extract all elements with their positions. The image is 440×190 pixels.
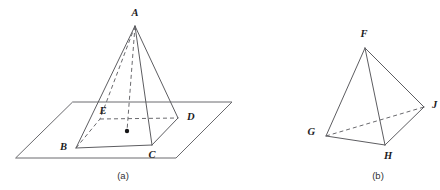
figure-a-group: A B C D E (a)	[16, 7, 232, 180]
vertex-label-C: C	[148, 149, 156, 160]
hidden-edge-A-center	[127, 26, 135, 131]
edge-G-H	[326, 136, 385, 145]
figure-b-solid-edges	[326, 48, 424, 145]
edge-B-C	[76, 145, 152, 148]
base-center-dot	[125, 129, 129, 133]
figure-b-labels: F G H J	[307, 28, 438, 161]
edge-C-D	[152, 118, 178, 145]
vertex-label-A: A	[130, 7, 138, 18]
edge-F-H	[365, 48, 385, 145]
figure-a-caption: (a)	[117, 170, 129, 181]
figure-root: A B C D E (a) F G	[0, 0, 440, 190]
edge-F-G	[326, 48, 365, 136]
figure-a-labels: A B C D E	[59, 7, 195, 160]
figure-b-group: F G H J (b)	[307, 28, 438, 180]
edge-H-J	[385, 107, 424, 145]
horizontal-plane	[16, 102, 232, 158]
figure-b-caption: (b)	[372, 170, 384, 181]
geometry-canvas: A B C D E (a) F G	[0, 0, 440, 190]
vertex-label-F: F	[359, 28, 367, 39]
vertex-label-B: B	[59, 141, 67, 152]
vertex-label-J: J	[431, 99, 438, 110]
hidden-edge-E-D	[100, 118, 178, 119]
vertex-label-E: E	[98, 105, 106, 116]
vertex-label-G: G	[307, 126, 315, 137]
edge-F-J	[365, 48, 424, 107]
vertex-label-D: D	[186, 111, 195, 122]
vertex-label-H: H	[383, 150, 393, 161]
